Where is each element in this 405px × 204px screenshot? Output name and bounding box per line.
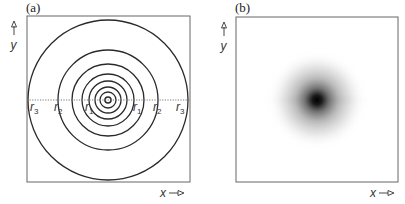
radius-label: r1 — [133, 100, 142, 116]
y-axis-arrow-a — [12, 21, 17, 35]
panel-a: (a) y r3r2r1r1r2r3 x — [10, 0, 191, 200]
x-axis-arrow-b — [379, 191, 394, 196]
panel-b: (b) y x — [220, 0, 399, 200]
radius-label: r3 — [176, 100, 185, 116]
panel-b-label: (b) — [235, 0, 250, 15]
x-axis-arrow-a — [169, 191, 184, 196]
figure: (a) y r3r2r1r1r2r3 x (b) y x — [0, 0, 405, 204]
y-axis-label-b: y — [220, 39, 228, 53]
panel-a-label: (a) — [26, 0, 40, 15]
x-arrow-head-icon — [388, 191, 394, 196]
spot-core — [269, 52, 365, 148]
y-axis-arrow-b — [222, 22, 227, 36]
x-axis-label-a: x — [159, 186, 167, 200]
x-arrow-head-icon — [178, 191, 184, 196]
x-axis-label-b: x — [369, 186, 377, 200]
y-axis-label-a: y — [10, 38, 18, 52]
radius-label: r3 — [30, 100, 39, 116]
